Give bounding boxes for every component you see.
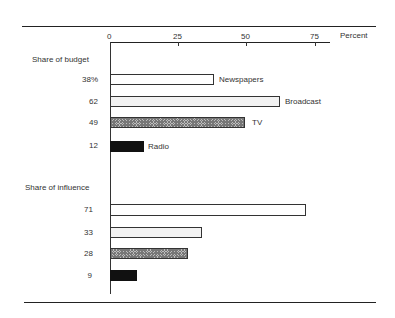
bar-influence-radio bbox=[110, 270, 137, 281]
bar-label-broadcast: Broadcast bbox=[285, 97, 321, 107]
x-tick-75 bbox=[315, 42, 316, 46]
x-axis-line bbox=[110, 42, 330, 43]
value-label-budget-broadcast: 62 bbox=[60, 97, 98, 107]
value-label-influence-broadcast: 33 bbox=[60, 228, 93, 238]
bottom-rule bbox=[24, 302, 376, 303]
x-axis-unit-label: Percent bbox=[340, 31, 368, 41]
bar-budget-tv bbox=[110, 117, 245, 128]
bar-budget-broadcast bbox=[110, 96, 280, 107]
x-tick-label-0: 0 bbox=[107, 32, 111, 42]
value-label-budget-newspapers: 38% bbox=[60, 75, 98, 85]
bar-label-newspapers: Newspapers bbox=[219, 75, 263, 85]
bar-label-tv: TV bbox=[252, 118, 262, 128]
value-label-budget-radio: 12 bbox=[60, 141, 98, 151]
group-heading-influence: Share of influence bbox=[25, 183, 90, 193]
group-heading-budget: Share of budget bbox=[32, 55, 89, 65]
value-label-influence-radio: 9 bbox=[60, 271, 92, 281]
top-rule bbox=[22, 26, 376, 27]
x-tick-25 bbox=[178, 42, 179, 46]
bar-influence-tv bbox=[110, 248, 188, 259]
x-tick-label-50: 50 bbox=[241, 32, 250, 42]
bar-influence-newspapers bbox=[110, 204, 306, 216]
value-label-budget-tv: 49 bbox=[60, 118, 98, 128]
x-tick-label-75: 75 bbox=[310, 32, 319, 42]
bar-budget-newspapers bbox=[110, 74, 214, 85]
bar-label-radio: Radio bbox=[148, 142, 169, 152]
value-label-influence-tv: 28 bbox=[60, 249, 93, 259]
bar-budget-radio bbox=[110, 141, 144, 152]
value-label-influence-newspapers: 71 bbox=[60, 205, 93, 215]
x-tick-label-25: 25 bbox=[173, 32, 182, 42]
x-tick-50 bbox=[246, 42, 247, 46]
bar-influence-broadcast bbox=[110, 227, 202, 238]
